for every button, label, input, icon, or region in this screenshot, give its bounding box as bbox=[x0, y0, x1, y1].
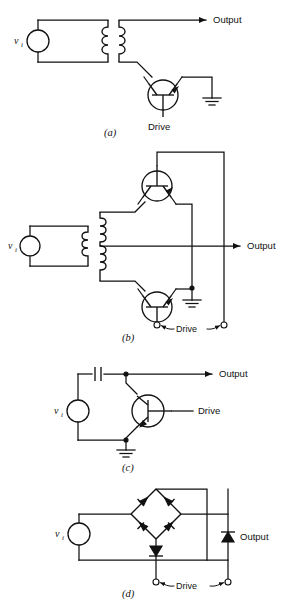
panel-a-caption: (a) bbox=[104, 127, 117, 139]
panel-a-transistor bbox=[144, 77, 182, 117]
panel-a-drive-label: Drive bbox=[148, 121, 170, 132]
panel-c-transistor bbox=[132, 395, 172, 427]
input-source-symbol bbox=[68, 523, 90, 545]
panel-b-drive-leader-right bbox=[207, 326, 220, 330]
input-source-sublabel: i bbox=[21, 41, 23, 49]
panel-b-input-source-group: v i bbox=[8, 226, 88, 266]
input-source-label: v bbox=[14, 35, 19, 46]
panel-b: v i Output bbox=[8, 152, 276, 344]
panel-b-drive-terminal-right[interactable] bbox=[221, 322, 227, 328]
input-source-symbol bbox=[20, 236, 40, 256]
panel-d-drive-terminal-right[interactable] bbox=[225, 579, 231, 585]
panel-c-ground-symbol bbox=[117, 450, 135, 457]
panel-c-input-source-group: v i bbox=[54, 374, 126, 440]
panel-d-output-label: Output bbox=[240, 531, 269, 542]
input-source-sublabel: i bbox=[61, 411, 63, 419]
panel-d-drive-label: Drive bbox=[176, 581, 197, 591]
panel-d-diode-top-right bbox=[165, 498, 175, 506]
input-source-sublabel: i bbox=[62, 534, 64, 542]
input-source-sublabel: i bbox=[15, 246, 17, 254]
panel-c-caption: (c) bbox=[122, 462, 134, 474]
circuit-figure: v i Output Drive bbox=[0, 0, 292, 605]
panel-d-drive-leader-right bbox=[210, 583, 224, 587]
panel-d-input-source-group: v i bbox=[55, 514, 90, 560]
panel-b-output-label: Output bbox=[247, 240, 276, 251]
panel-a-output-label: Output bbox=[213, 14, 242, 25]
input-source-symbol bbox=[27, 30, 49, 52]
panel-a-collector-wire bbox=[119, 62, 152, 77]
panel-b-transistor-top bbox=[138, 165, 176, 204]
panel-c-output-label: Output bbox=[219, 368, 248, 379]
input-source-label: v bbox=[8, 240, 13, 251]
panel-c-collector-wire bbox=[126, 374, 137, 394]
panel-a-ground-symbol bbox=[203, 98, 221, 105]
panel-d-drive-leader-left bbox=[160, 583, 174, 587]
panel-d-output-diode bbox=[221, 532, 235, 542]
panel-c-drive-label: Drive bbox=[198, 405, 220, 416]
input-source-label: v bbox=[54, 405, 59, 416]
panel-d-diode-bridge bbox=[131, 489, 181, 539]
panel-a-input-source-group: v i bbox=[14, 20, 108, 62]
panel-c: v i Output Drive bbox=[54, 367, 248, 474]
panel-d-series-diode bbox=[149, 546, 163, 556]
panel-c-capacitor bbox=[95, 367, 101, 381]
panel-b-transistor-bottom bbox=[138, 289, 176, 322]
panel-b-drive-terminal-left[interactable] bbox=[154, 322, 160, 328]
panel-a-ground-wire bbox=[182, 77, 212, 98]
panel-b-caption: (b) bbox=[122, 332, 135, 344]
panel-b-drive-leader-left bbox=[161, 326, 174, 330]
panel-d: v i bbox=[55, 489, 269, 600]
panel-a: v i Output Drive bbox=[14, 14, 242, 139]
panel-d-bridge-top-wire bbox=[156, 489, 207, 560]
panel-d-caption: (d) bbox=[122, 588, 135, 600]
input-source-label: v bbox=[55, 528, 60, 539]
panel-d-drive-terminal-left[interactable] bbox=[153, 579, 159, 585]
panel-b-ground-symbol bbox=[183, 300, 201, 307]
panel-d-diode-top-left bbox=[138, 498, 148, 506]
input-source-symbol bbox=[67, 400, 89, 422]
panel-a-transformer bbox=[102, 20, 125, 62]
panel-b-drive-label: Drive bbox=[176, 324, 197, 334]
